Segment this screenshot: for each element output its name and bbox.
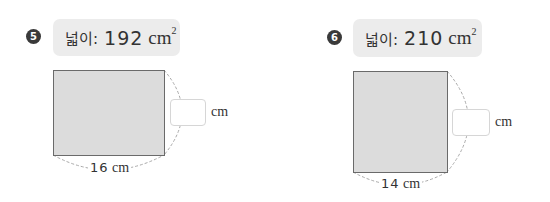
answer-unit: cm bbox=[495, 114, 512, 130]
area-label: 넓이: 210 cm2 bbox=[353, 19, 482, 57]
known-side-label: 16 cm bbox=[88, 160, 131, 176]
rectangle-figure bbox=[353, 71, 448, 173]
problem-number-badge: 6 bbox=[327, 30, 342, 45]
known-side-label: 14 cm bbox=[379, 176, 422, 192]
area-label-text: 넓이: bbox=[65, 27, 98, 48]
problem-number-badge: 5 bbox=[26, 29, 41, 44]
rectangle-figure bbox=[53, 70, 165, 156]
area-unit: cm2 bbox=[148, 27, 176, 49]
area-label-text: 넓이: bbox=[365, 28, 398, 49]
answer-unit: cm bbox=[211, 104, 228, 120]
answer-input-box[interactable] bbox=[452, 109, 490, 136]
area-value: 192 bbox=[104, 27, 143, 49]
area-label: 넓이: 192 cm2 bbox=[53, 19, 180, 56]
area-unit: cm2 bbox=[448, 27, 476, 49]
area-value: 210 bbox=[404, 27, 443, 49]
answer-input-box[interactable] bbox=[170, 99, 206, 126]
